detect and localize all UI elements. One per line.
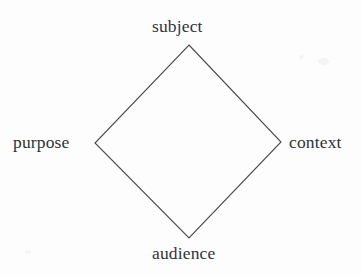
vertex-label-context: context: [289, 134, 342, 152]
vertex-label-purpose: purpose: [13, 134, 69, 152]
rhetorical-situation-diagram: subject purpose context audience: [0, 0, 361, 275]
vertex-label-subject: subject: [152, 18, 203, 36]
vertex-label-audience: audience: [152, 245, 215, 263]
diamond-outline: [95, 45, 281, 238]
